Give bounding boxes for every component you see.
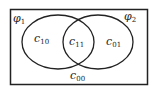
region-c10-label: c10: [34, 32, 49, 46]
region-c11-label: c11: [69, 35, 84, 49]
venn-diagram: φ1 φ2 c10 c11 c01 c00: [0, 0, 157, 91]
set-phi2-label: φ2: [124, 10, 136, 24]
region-c01-label: c01: [106, 35, 121, 49]
region-c00-label: c00: [70, 69, 85, 83]
set-phi1-label: φ1: [13, 12, 25, 26]
